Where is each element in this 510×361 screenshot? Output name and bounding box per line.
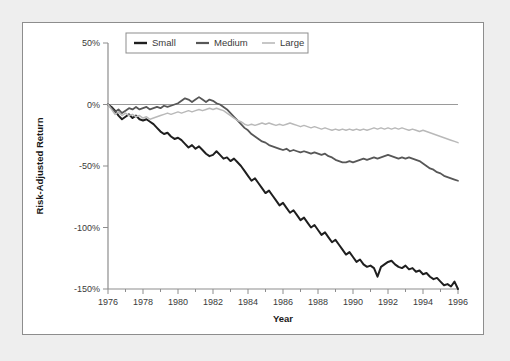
risk-adjusted-return-line-chart: 50%0%-50%-100%-150% 19761978198019821984… [23,23,483,334]
x-axis-title: Year [273,313,293,324]
chart-legend[interactable]: SmallMediumLarge [126,33,308,53]
y-tick-label: -50% [79,161,100,171]
x-tick-label: 1982 [203,297,223,307]
x-tick-label: 1980 [168,297,188,307]
x-tick-label: 1988 [308,297,328,307]
y-tick-label: -150% [74,284,100,294]
x-tick-label: 1990 [343,297,363,307]
y-tick-label: -100% [74,223,100,233]
x-tick-label: 1992 [378,297,398,307]
x-tick-label: 1986 [273,297,293,307]
legend-label-small[interactable]: Small [152,37,176,48]
x-tick-label: 1996 [448,297,468,307]
legend-label-large[interactable]: Large [280,37,304,48]
y-tick-label: 0% [87,100,100,110]
x-tick-label: 1984 [238,297,258,307]
y-axis-title: Risk-Adjusted Return [34,117,45,214]
y-tick-label: 50% [82,38,100,48]
x-tick-label: 1978 [133,297,153,307]
chart-figure: 50%0%-50%-100%-150% 19761978198019821984… [22,22,484,335]
legend-label-medium[interactable]: Medium [214,37,248,48]
x-tick-label: 1994 [413,297,433,307]
x-tick-label: 1976 [98,297,118,307]
